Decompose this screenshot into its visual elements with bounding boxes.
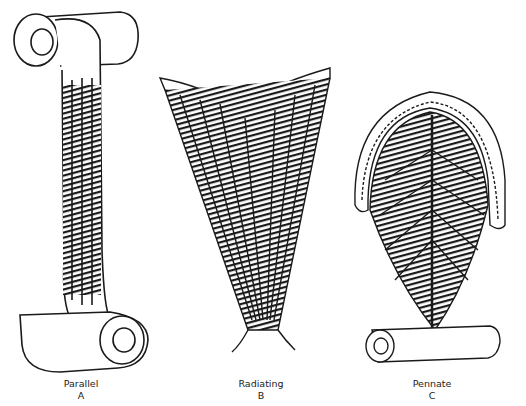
label-radiating: Radiating B: [216, 378, 306, 402]
figure-b-radiating: [160, 68, 330, 352]
muscle-fiber-diagram: [0, 0, 526, 406]
figure-letter: A: [36, 390, 126, 402]
figure-name: Radiating: [216, 378, 306, 390]
figure-letter: B: [216, 390, 306, 402]
figure-letter: C: [387, 390, 477, 402]
figure-a-parallel: [14, 12, 148, 372]
figure-name: Parallel: [36, 378, 126, 390]
figure-c-pennate: [355, 92, 505, 362]
label-parallel: Parallel A: [36, 378, 126, 402]
label-pennate: Pennate C: [387, 378, 477, 402]
figure-name: Pennate: [387, 378, 477, 390]
